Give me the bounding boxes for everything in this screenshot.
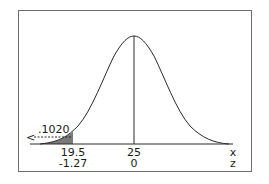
z-mean-label: 0 xyxy=(131,157,138,170)
area-label: .1020 xyxy=(38,123,70,136)
normal-distribution-chart: < .1020 19.5 -1.27 25 0 x z xyxy=(0,0,269,184)
arrow-head-icon: < xyxy=(26,131,35,144)
z-cut-label: -1.27 xyxy=(59,157,87,170)
z-axis-label: z xyxy=(230,157,236,170)
